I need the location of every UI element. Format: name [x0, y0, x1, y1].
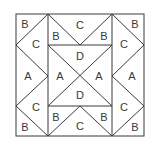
label-center-d-top: D — [76, 50, 84, 62]
label-top-b-left: B — [52, 30, 59, 42]
label-tr-c: C — [120, 38, 128, 50]
label-bottom-b-left: B — [52, 111, 59, 123]
left-zigzag-lines — [16, 14, 48, 136]
label-tr-b: B — [131, 18, 138, 30]
label-tl-b: B — [21, 18, 28, 30]
label-left-a: A — [24, 70, 32, 82]
label-br-c: C — [120, 101, 128, 113]
label-tl-c: C — [32, 38, 40, 50]
label-bottom-c: C — [76, 120, 84, 132]
label-bl-c: C — [32, 101, 40, 113]
label-right-a: A — [128, 70, 136, 82]
label-bl-b: B — [21, 121, 28, 133]
label-top-b-right: B — [100, 30, 107, 42]
label-center-a-left: A — [56, 70, 64, 82]
label-top-c: C — [76, 19, 84, 31]
label-br-b: B — [131, 121, 138, 133]
quilt-block-diagram: B C B C B B C A A D A A D C B B C B C B — [0, 0, 151, 147]
label-center-a-right: A — [95, 70, 103, 82]
label-center-d-bottom: D — [76, 89, 84, 101]
label-bottom-b-right: B — [100, 111, 107, 123]
